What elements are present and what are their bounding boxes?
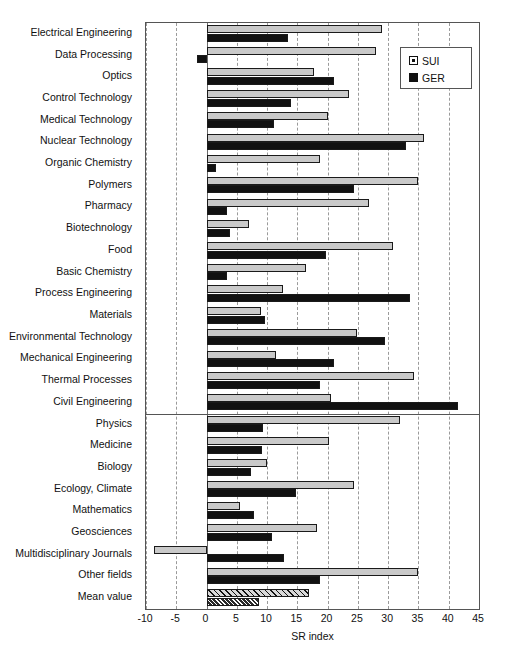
bar-group [146, 283, 479, 305]
bar-sui [207, 155, 321, 163]
bar-ger [207, 164, 216, 172]
bar-group [146, 435, 479, 457]
bar-sui [207, 329, 357, 337]
bar-group [146, 370, 479, 392]
category-label: Basic Chemistry [56, 266, 132, 277]
bar-ger [207, 402, 459, 410]
bar-ger [207, 446, 263, 454]
bar-group [146, 197, 479, 219]
legend-swatch-ger-icon [409, 73, 418, 82]
bar-ger [207, 359, 334, 367]
x-tick-label: 5 [233, 612, 239, 624]
bar-group [146, 240, 479, 262]
bar-ger [207, 142, 407, 150]
category-label: Data Processing [55, 49, 132, 60]
bar-group [146, 132, 479, 154]
bar-ger [207, 207, 228, 215]
bar-ger [207, 77, 335, 85]
bar-sui [207, 524, 317, 532]
bar-sui [207, 242, 393, 250]
category-label: Multidisciplinary Journals [15, 548, 132, 559]
bar-group [146, 566, 479, 588]
bar-sui [207, 25, 382, 33]
bar-ger [207, 272, 228, 280]
bar-sui [207, 502, 241, 510]
category-label: Civil Engineering [53, 396, 132, 407]
bar-sui [154, 546, 207, 554]
x-tick-label: 20 [321, 612, 333, 624]
bar-ger [207, 34, 288, 42]
category-label: Physics [96, 418, 132, 429]
bar-ger [207, 337, 386, 345]
category-label: Medical Technology [40, 114, 132, 125]
x-tick-label: 35 [412, 612, 424, 624]
bar-group [146, 88, 479, 110]
bar-group [146, 349, 479, 371]
bar-group [146, 23, 479, 45]
bar-group [146, 414, 479, 436]
bar-ger [207, 99, 291, 107]
x-tick-label: 25 [351, 612, 363, 624]
bar-sui [207, 394, 331, 402]
category-label: Food [108, 244, 132, 255]
bar-group [146, 262, 479, 284]
bar-group [146, 587, 479, 609]
category-label: Materials [89, 309, 132, 320]
value-axis-title: SR index [145, 630, 480, 642]
x-tick-label: 15 [291, 612, 303, 624]
x-tick-label: 0 [203, 612, 209, 624]
legend-item-sui: SUI [409, 52, 471, 69]
category-label: Biology [98, 461, 132, 472]
bar-ger [207, 185, 355, 193]
category-label: Other fields [78, 569, 132, 580]
bar-ger [207, 381, 320, 389]
category-label: Ecology, Climate [54, 483, 132, 494]
chart-figure: Electrical EngineeringData ProcessingOpt… [0, 0, 505, 658]
bar-sui [207, 134, 424, 142]
bar-ger [207, 533, 272, 541]
bar-group [146, 218, 479, 240]
bar-ger [207, 251, 327, 259]
bar-sui [207, 459, 268, 467]
bar-ger [207, 316, 266, 324]
bar-sui [207, 307, 261, 315]
x-tick-label: 10 [260, 612, 272, 624]
bar-sui [207, 90, 350, 98]
bar-group [146, 327, 479, 349]
bar-sui [207, 112, 328, 120]
bar-sui [207, 568, 418, 576]
category-label: Pharmacy [85, 200, 132, 211]
category-label: Polymers [88, 179, 132, 190]
category-label: Mathematics [72, 504, 132, 515]
x-tick-label: 45 [472, 612, 484, 624]
bar-ger [197, 55, 206, 63]
category-label: Process Engineering [35, 287, 132, 298]
bar-sui [207, 589, 310, 597]
bar-sui [207, 220, 249, 228]
bar-ger [207, 424, 264, 432]
legend-item-ger: GER [409, 69, 471, 86]
legend-swatch-sui-icon [409, 56, 418, 65]
gridline [479, 23, 480, 609]
x-tick-label: 40 [442, 612, 454, 624]
bar-ger [207, 294, 410, 302]
bar-sui [207, 68, 314, 76]
category-label: Thermal Processes [42, 374, 132, 385]
chart-legend: SUI GER [400, 47, 472, 89]
bar-group [146, 175, 479, 197]
bar-sui [207, 372, 415, 380]
x-tick-label: -5 [171, 612, 180, 624]
bar-group [146, 479, 479, 501]
legend-label-sui: SUI [422, 55, 440, 67]
category-label: Geosciences [71, 526, 132, 537]
plot-area [145, 22, 480, 610]
bar-sui [207, 285, 283, 293]
bar-ger [207, 468, 252, 476]
category-label: Organic Chemistry [45, 157, 132, 168]
bar-ger [207, 598, 260, 606]
x-tick-label: -10 [137, 612, 152, 624]
category-label: Control Technology [42, 92, 132, 103]
category-label: Medicine [90, 439, 132, 450]
value-axis-ticks: -10-5051015202530354045 [145, 612, 480, 628]
bar-ger [207, 120, 275, 128]
